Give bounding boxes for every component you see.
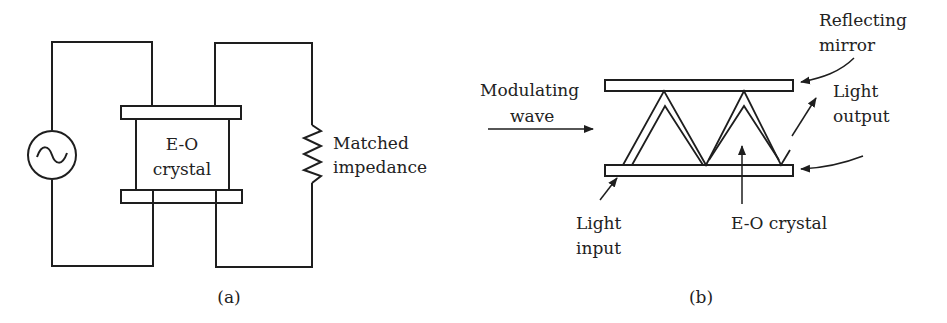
light-path-inner-line <box>632 106 703 165</box>
bottom-mirror <box>605 165 793 176</box>
eo-crystal-block <box>136 119 229 190</box>
crystal-label-line1: E-O <box>166 134 198 154</box>
mirror-label-line1: Reflecting <box>819 10 907 30</box>
mirror-bottom-arrow <box>801 156 863 169</box>
output-label-line1: Light <box>833 81 879 101</box>
panel-b-caption: (b) <box>689 287 713 307</box>
light-output-arrow <box>792 98 816 136</box>
left-wire-bottom <box>52 180 153 266</box>
input-label-line1: Light <box>576 213 622 233</box>
light-input-arrow <box>600 178 617 200</box>
light-path-inner-line2 <box>709 106 779 160</box>
left-wire-loop <box>52 42 152 106</box>
modulating-label-line1: Modulating <box>480 80 579 100</box>
modulating-label-line2: wave <box>510 106 554 126</box>
impedance-label-line1: Matched <box>333 133 409 153</box>
resistor-icon <box>304 125 321 183</box>
crystal-label-line2: crystal <box>153 159 211 179</box>
right-wire-top <box>215 43 312 125</box>
sine-wave-icon <box>37 147 67 162</box>
right-wire-bottom <box>216 183 312 267</box>
mirror-top-arrow <box>801 58 854 82</box>
mirror-label-line2: mirror <box>819 35 876 55</box>
input-label-line2: input <box>576 238 621 258</box>
diagram-canvas: E-O crystal Matched impedance (a) Reflec… <box>0 0 947 323</box>
impedance-label-line2: impedance <box>333 157 427 177</box>
light-path-outer <box>623 91 790 165</box>
output-label-line2: output <box>833 106 890 126</box>
light-path-inner <box>632 106 781 178</box>
top-mirror <box>605 80 793 91</box>
bottom-electrode <box>121 190 242 203</box>
top-electrode <box>121 106 241 119</box>
panel-a-circuit <box>28 42 321 267</box>
crystal-label: E-O crystal <box>731 213 827 233</box>
panel-a-caption: (a) <box>217 287 240 307</box>
left-wire-top <box>52 42 152 130</box>
